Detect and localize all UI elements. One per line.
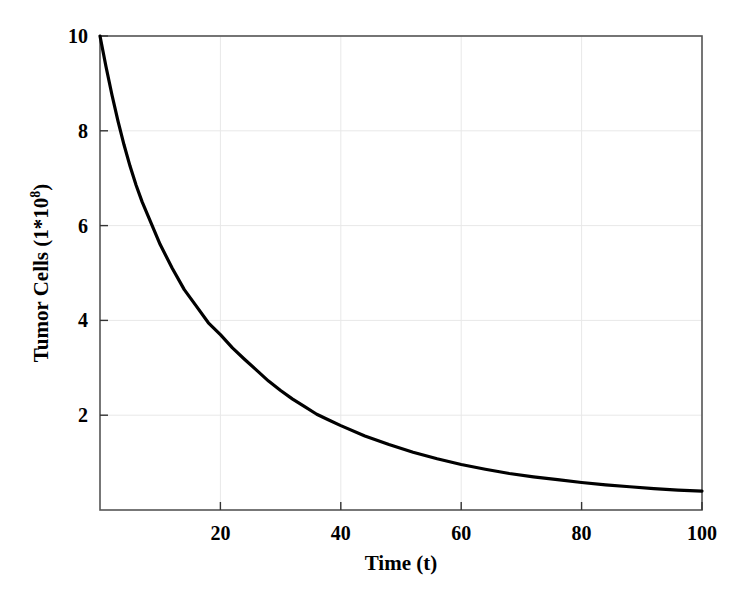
y-axis-title-group: Tumor Cells (1*108) [28, 184, 53, 363]
y-axis-title-main: Tumor Cells (1*10 [29, 198, 53, 363]
y-tick-label-4: 4 [78, 309, 88, 331]
y-tick-label-6: 6 [78, 215, 88, 237]
y-tick-label-10: 10 [68, 25, 88, 47]
y-tick-label-8: 8 [78, 120, 88, 142]
tumor-cells-decay-chart: 20406080100 246810 Time (t) Tumor Cells … [0, 0, 753, 597]
x-tick-label-80: 80 [572, 522, 592, 544]
y-axis-title-close: ) [29, 184, 53, 191]
x-tick-label-40: 40 [331, 522, 351, 544]
y-axis-title: Tumor Cells (1*108) [28, 184, 53, 363]
x-tick-label-100: 100 [687, 522, 717, 544]
x-tick-label-60: 60 [451, 522, 471, 544]
chart-background [0, 0, 753, 597]
chart-figure: 20406080100 246810 Time (t) Tumor Cells … [0, 0, 753, 597]
x-axis-title: Time (t) [365, 551, 438, 575]
y-tick-label-2: 2 [78, 404, 88, 426]
y-axis-title-exponent: 8 [28, 191, 43, 198]
x-tick-label-20: 20 [210, 522, 230, 544]
